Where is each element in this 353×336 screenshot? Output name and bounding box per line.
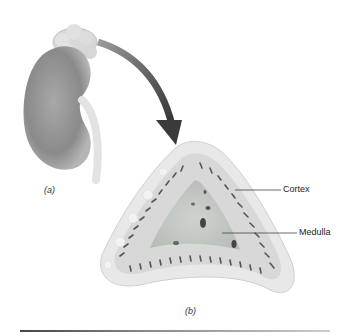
label-cortex: Cortex bbox=[283, 184, 310, 194]
kidney-shape bbox=[24, 46, 91, 169]
adrenal-cross-section bbox=[101, 141, 295, 292]
adrenal-gland-figure: (a) (b) Cortex Medulla bbox=[0, 0, 353, 336]
caption-a: (a) bbox=[44, 185, 55, 195]
caption-b: (b) bbox=[185, 306, 196, 316]
bottom-rule-divider bbox=[20, 330, 330, 332]
arrow-icon bbox=[98, 42, 182, 145]
label-medulla: Medulla bbox=[299, 227, 331, 237]
figure-illustration bbox=[0, 0, 353, 336]
